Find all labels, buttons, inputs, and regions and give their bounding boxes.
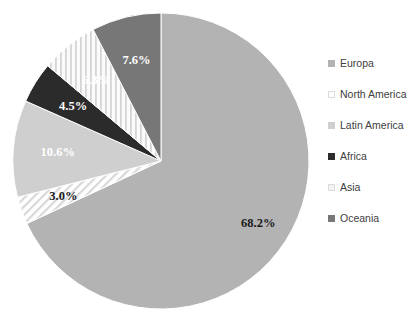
slice-value-label: 3.0%: [49, 189, 77, 203]
legend-item-label: Europa: [340, 58, 374, 69]
chart-legend: EuropaNorth AmericaLatin AmericaAfricaAs…: [328, 48, 420, 234]
legend-item-oceania[interactable]: Oceania: [328, 203, 420, 234]
legend-item-latin-america[interactable]: Latin America: [328, 110, 420, 141]
legend-swatch-icon: [328, 184, 335, 191]
legend-swatch-icon: [328, 122, 335, 129]
slice-value-label: 7.6%: [122, 53, 150, 67]
legend-item-asia[interactable]: Asia: [328, 172, 420, 203]
legend-item-label: Latin America: [340, 120, 404, 131]
legend-swatch-icon: [328, 153, 335, 160]
legend-swatch-icon: [328, 91, 335, 98]
pie-chart-svg: 68.2%3.0%10.6%4.5%6.3%7.6%: [0, 0, 320, 321]
legend-swatch-icon: [328, 215, 335, 222]
slice-value-label: 4.5%: [59, 99, 87, 113]
legend-item-label: Asia: [340, 182, 360, 193]
legend-item-north-america[interactable]: North America: [328, 79, 420, 110]
slice-value-label: 10.6%: [41, 145, 75, 159]
slice-value-label: 68.2%: [241, 216, 275, 230]
pie-slices: [13, 13, 309, 309]
slice-value-label: 6.3%: [82, 73, 110, 87]
pie-chart-area: 68.2%3.0%10.6%4.5%6.3%7.6%: [0, 0, 320, 321]
legend-swatch-icon: [328, 60, 335, 67]
legend-item-africa[interactable]: Africa: [328, 141, 420, 172]
legend-item-europa[interactable]: Europa: [328, 48, 420, 79]
legend-item-label: Africa: [340, 151, 367, 162]
legend-item-label: North America: [340, 89, 407, 100]
legend-item-label: Oceania: [340, 213, 379, 224]
